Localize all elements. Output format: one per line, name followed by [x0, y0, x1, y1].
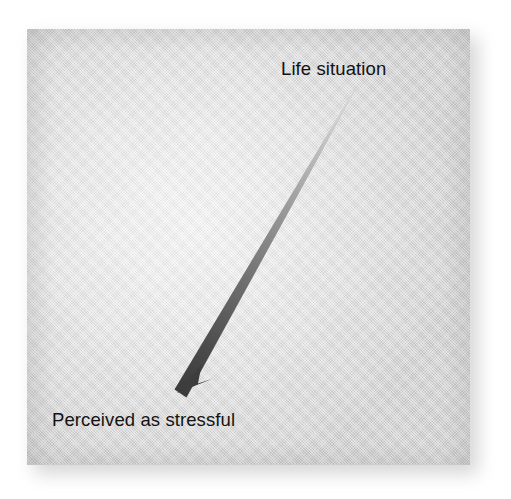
label-perceived-as-stressful: Perceived as stressful [52, 410, 235, 430]
arrow-graphic [27, 29, 470, 465]
figure-root: Life situation Perceived as stressful [0, 0, 511, 499]
arrow-shaft [175, 89, 357, 398]
label-life-situation: Life situation [281, 59, 386, 79]
gray-panel [27, 29, 470, 465]
